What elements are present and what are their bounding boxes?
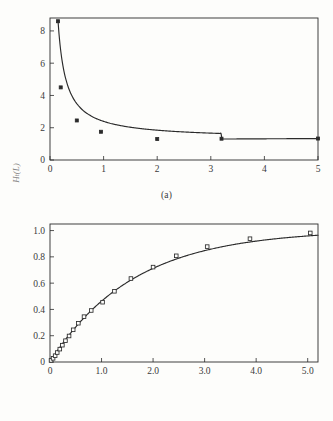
svg-text:3: 3 (208, 164, 213, 174)
svg-text:2: 2 (40, 123, 45, 133)
svg-text:0: 0 (40, 155, 45, 165)
svg-text:8: 8 (40, 26, 45, 36)
chart-b-svg: 01.02.03.04.05.000.20.40.60.81.0 (0, 210, 333, 385)
svg-text:0: 0 (48, 164, 53, 174)
chart-panel-b: 01.02.03.04.05.000.20.40.60.81.0 L (b) (0, 210, 333, 421)
chart-panel-a: 01234502468 Hₜ(L) (a) (0, 0, 333, 210)
chart-a-y-axis-label: Hₜ(L) (11, 151, 21, 195)
svg-text:4: 4 (262, 164, 267, 174)
svg-text:1.0: 1.0 (96, 366, 108, 376)
svg-text:1: 1 (101, 164, 106, 174)
figure-page: 01234502468 Hₜ(L) (a) 01.02.03.04.05.000… (0, 0, 333, 421)
svg-text:1.0: 1.0 (33, 226, 45, 236)
svg-text:0: 0 (48, 366, 53, 376)
svg-text:4.0: 4.0 (250, 366, 262, 376)
svg-text:0.8: 0.8 (33, 252, 45, 262)
svg-text:6: 6 (40, 59, 45, 69)
svg-text:5.0: 5.0 (302, 366, 314, 376)
svg-text:0.4: 0.4 (33, 305, 45, 315)
svg-text:2: 2 (155, 164, 160, 174)
svg-text:2.0: 2.0 (147, 366, 159, 376)
svg-text:0.2: 0.2 (33, 331, 45, 341)
chart-a-caption: (a) (0, 190, 333, 200)
svg-text:4: 4 (40, 91, 45, 101)
svg-text:0: 0 (40, 357, 45, 367)
svg-text:3.0: 3.0 (199, 366, 211, 376)
svg-text:0.6: 0.6 (33, 279, 45, 289)
svg-text:5: 5 (316, 164, 321, 174)
chart-a-svg: 01234502468 (0, 0, 333, 190)
